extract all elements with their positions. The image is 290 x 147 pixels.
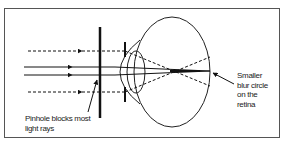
retina-label: Smaller blur circle on the retina	[237, 71, 268, 109]
pinhole-pointer-arrow	[88, 80, 97, 112]
pinhole-label: Pinhole blocks most light rays	[25, 114, 90, 133]
pinhole-label-line2: light rays	[25, 124, 90, 134]
retina-pointer-arrow	[213, 73, 234, 84]
pinhole-label-line1: Pinhole blocks most	[25, 114, 90, 124]
retina-label-line1: Smaller	[237, 71, 268, 81]
lens	[127, 51, 145, 93]
retina-label-line3: on the	[237, 90, 268, 100]
retina-label-line4: retina	[237, 100, 268, 110]
dashed-ray-top-inner	[125, 51, 210, 86]
retina-label-line2: blur circle	[237, 81, 268, 91]
